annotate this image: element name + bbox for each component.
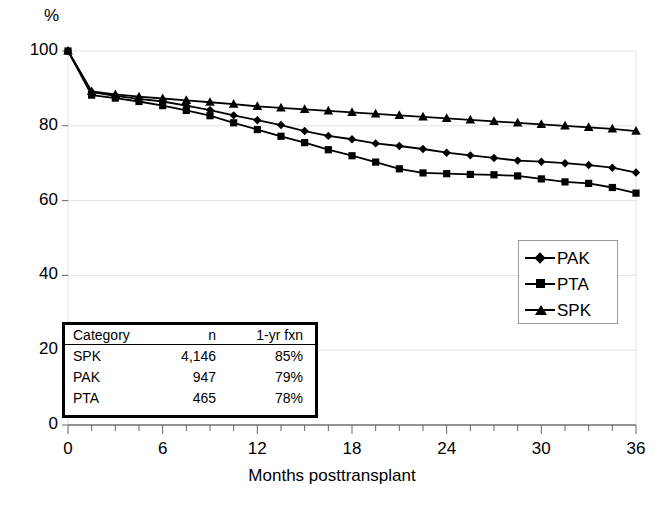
diamond-marker-icon — [525, 250, 555, 266]
y-tick-label-40: 40 — [4, 264, 58, 284]
x-tick-label-6: 6 — [143, 439, 183, 459]
x-tick-label-24: 24 — [427, 439, 467, 459]
table-row: PTA46578% — [65, 387, 315, 408]
square-marker-icon — [525, 276, 555, 292]
survival-chart-figure: % 020406080100 061218243036 Months postt… — [0, 0, 664, 511]
legend-label-pta: PTA — [555, 276, 589, 293]
table-header-category: Category — [65, 325, 158, 345]
triangle-marker-icon — [525, 302, 555, 318]
table-header-row: Category n 1-yr fxn — [65, 325, 315, 345]
table-cell-fxn: 85% — [230, 345, 315, 367]
x-tick-label-0: 0 — [48, 439, 88, 459]
y-tick-label-100: 100 — [4, 40, 58, 60]
y-tick-label-80: 80 — [4, 115, 58, 135]
table-row: SPK4,14685% — [65, 345, 315, 367]
summary-data-table: Category n 1-yr fxn SPK4,14685%PAK94779%… — [62, 322, 318, 418]
table-cell-n: 4,146 — [158, 345, 231, 367]
x-tick-label-12: 12 — [237, 439, 277, 459]
y-axis-unit-label: % — [44, 6, 59, 26]
x-tick-label-30: 30 — [521, 439, 561, 459]
legend-label-pak: PAK — [555, 250, 590, 267]
legend-item-spk[interactable]: SPK — [519, 297, 617, 323]
y-tick-label-20: 20 — [4, 339, 58, 359]
table-header-fxn: 1-yr fxn — [230, 325, 315, 345]
table-cell-n: 465 — [158, 387, 231, 408]
table-header-n: n — [158, 325, 231, 345]
table-cell-category: PTA — [65, 387, 158, 408]
legend-item-pak[interactable]: PAK — [519, 245, 617, 271]
chart-legend: PAK PTA SPK — [518, 240, 618, 324]
legend-item-pta[interactable]: PTA — [519, 271, 617, 297]
x-tick-label-18: 18 — [332, 439, 372, 459]
table-row: PAK94779% — [65, 366, 315, 387]
y-tick-label-60: 60 — [4, 190, 58, 210]
legend-label-spk: SPK — [555, 302, 591, 319]
table-cell-fxn: 79% — [230, 366, 315, 387]
x-tick-label-36: 36 — [616, 439, 656, 459]
x-axis-title: Months posttransplant — [0, 466, 664, 486]
table-cell-n: 947 — [158, 366, 231, 387]
table-cell-fxn: 78% — [230, 387, 315, 408]
y-tick-label-0: 0 — [4, 414, 58, 434]
table-cell-category: PAK — [65, 366, 158, 387]
table-cell-category: SPK — [65, 345, 158, 367]
